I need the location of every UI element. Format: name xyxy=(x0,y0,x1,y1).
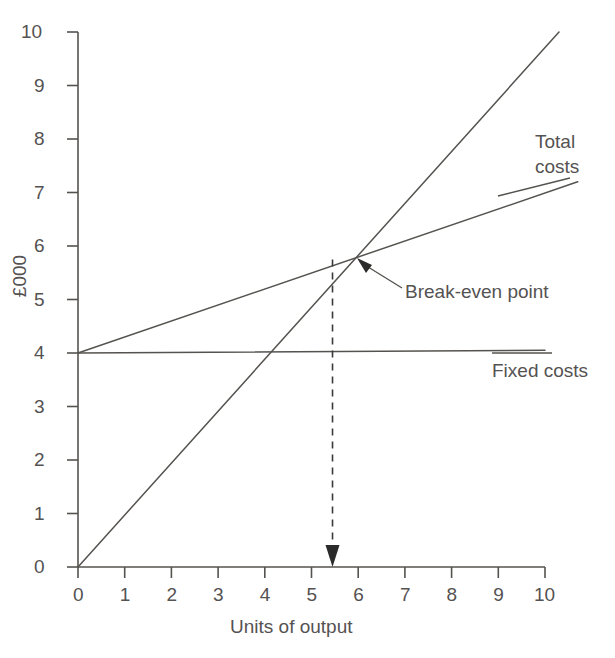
x-axis-title: Units of output xyxy=(230,616,353,638)
x-tick-label-4: 4 xyxy=(260,585,271,604)
x-tick-label-7: 7 xyxy=(400,585,411,604)
series-line-fixed-costs xyxy=(78,350,545,353)
break-even-dropline xyxy=(326,259,340,567)
total-costs-leader-line xyxy=(498,178,570,196)
chart-plot-area: £000 xyxy=(0,0,615,658)
x-tick-label-2: 2 xyxy=(166,585,177,604)
y-tick-label-3: 3 xyxy=(34,397,45,416)
fixed-costs-label: Fixed costs xyxy=(492,360,588,382)
y-tick-label-1: 1 xyxy=(34,504,45,523)
x-tick-label-3: 3 xyxy=(213,585,224,604)
x-tick-label-0: 0 xyxy=(73,585,84,604)
x-tick-label-9: 9 xyxy=(493,585,504,604)
y-tick-label-7: 7 xyxy=(34,183,45,202)
x-tick-label-1: 1 xyxy=(120,585,131,604)
x-axis-ticks xyxy=(78,567,545,578)
y-tick-label-5: 5 xyxy=(34,290,45,309)
x-tick-label-8: 8 xyxy=(447,585,458,604)
break-even-arrowhead xyxy=(357,258,372,273)
y-axis-ticks xyxy=(67,32,78,567)
x-tick-label-10: 10 xyxy=(534,585,555,604)
y-tick-label-10: 10 xyxy=(21,22,42,41)
dropline-arrowhead xyxy=(326,545,340,567)
y-tick-label-2: 2 xyxy=(34,450,45,469)
y-tick-label-6: 6 xyxy=(34,236,45,255)
leader-lines xyxy=(357,178,570,353)
x-tick-label-5: 5 xyxy=(307,585,318,604)
y-tick-label-9: 9 xyxy=(34,76,45,95)
break-even-chart: £000 012345678910 012345678910 Break-eve… xyxy=(0,0,615,658)
x-tick-label-6: 6 xyxy=(353,585,364,604)
total-costs-label-line1: Total xyxy=(535,131,575,153)
break-even-point-label: Break-even point xyxy=(405,281,549,303)
y-tick-label-4: 4 xyxy=(34,343,45,362)
y-axis-title: £000 xyxy=(9,255,30,297)
total-costs-label-line2: costs xyxy=(535,156,579,178)
y-tick-label-0: 0 xyxy=(34,557,45,576)
series-line-total-costs xyxy=(78,182,578,353)
y-tick-label-8: 8 xyxy=(34,129,45,148)
